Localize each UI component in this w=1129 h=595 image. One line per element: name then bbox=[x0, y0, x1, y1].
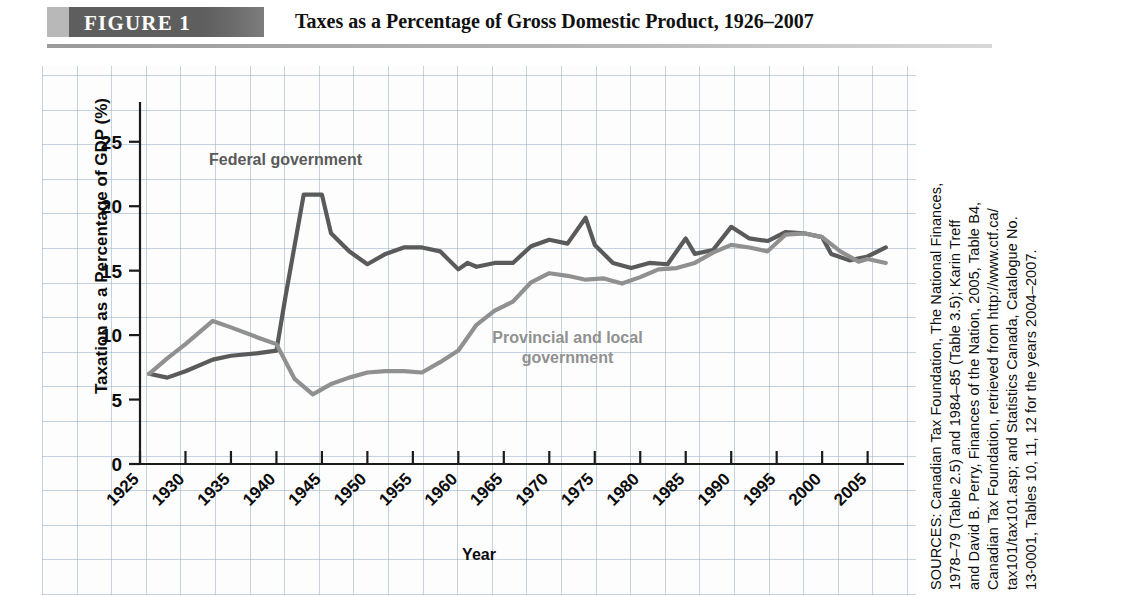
x-tick-label: 1960 bbox=[421, 469, 461, 509]
x-tick-label: 1975 bbox=[557, 469, 597, 509]
y-tick-label: 25 bbox=[101, 132, 123, 153]
source-line: Canadian Tax Foundation, retrieved from … bbox=[985, 208, 1001, 590]
source-line: SOURCES: Canadian Tax Foundation, The Na… bbox=[928, 183, 944, 590]
x-tick-label: 1995 bbox=[739, 469, 779, 509]
series-annotation: Provincial and local bbox=[492, 329, 642, 346]
x-tick-label: 1940 bbox=[239, 469, 279, 509]
line-chart-svg: 0510152025192519301935194019451950195519… bbox=[42, 66, 916, 595]
y-tick-label: 0 bbox=[111, 454, 122, 475]
figure-title: Taxes as a Percentage of Gross Domestic … bbox=[295, 10, 814, 33]
x-tick-label: 2005 bbox=[830, 469, 870, 509]
y-tick-label: 15 bbox=[101, 261, 123, 282]
figure-number-label: FIGURE 1 bbox=[84, 11, 191, 36]
header-divider bbox=[47, 44, 992, 48]
figure-tab-accent bbox=[47, 7, 69, 37]
x-tick-label: 1990 bbox=[694, 469, 734, 509]
x-tick-label: 1980 bbox=[603, 469, 643, 509]
x-tick-label: 1950 bbox=[330, 469, 370, 509]
x-tick-label: 1930 bbox=[148, 469, 188, 509]
chart-panel: Taxation as a Percentage of GDP (%) Year… bbox=[42, 66, 916, 595]
x-tick-label: 1925 bbox=[103, 469, 143, 509]
series-line bbox=[149, 195, 886, 378]
y-tick-label: 10 bbox=[101, 325, 122, 346]
source-line: and David B. Perry, Finances of the Nati… bbox=[966, 202, 982, 590]
source-line: 1978–79 (Table 2.5) and 1984–85 (Table 3… bbox=[947, 220, 963, 591]
x-tick-label: 1935 bbox=[194, 469, 234, 509]
figure-tab-gradient bbox=[203, 7, 264, 37]
series-annotation: government bbox=[522, 349, 614, 366]
y-tick-label: 20 bbox=[101, 196, 122, 217]
x-tick-label: 1970 bbox=[512, 469, 552, 509]
x-tick-label: 1955 bbox=[376, 469, 416, 509]
x-tick-label: 1985 bbox=[648, 469, 688, 509]
x-tick-label: 1965 bbox=[466, 469, 506, 509]
series-annotation: Federal government bbox=[209, 151, 363, 168]
sources-note: SOURCES: Canadian Tax Foundation, The Na… bbox=[928, 0, 1128, 595]
source-line: tax101/tax101.asp; and Statistics Canada… bbox=[1004, 216, 1020, 590]
x-tick-label: 2000 bbox=[785, 469, 825, 509]
source-line: 13-0001, Tables 10, 11, 12 for the years… bbox=[1023, 249, 1039, 590]
y-tick-label: 5 bbox=[111, 390, 122, 411]
x-tick-label: 1945 bbox=[285, 469, 325, 509]
